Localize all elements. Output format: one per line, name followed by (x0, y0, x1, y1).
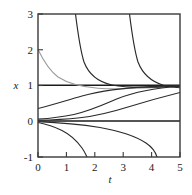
x-tick-label-1: 1 (64, 161, 70, 173)
y-tick-label-3: 3 (28, 8, 34, 20)
y-tick-label-neg1: -1 (24, 151, 33, 163)
x-tick-label-4: 4 (149, 161, 155, 173)
x-tick-label-0: 0 (35, 161, 41, 173)
x-tick-label-3: 3 (120, 161, 126, 173)
chart-figure: 3 2 1 0 -1 0 1 2 3 4 5 x t (0, 0, 192, 195)
y-tick-label-0: 0 (28, 115, 34, 127)
y-axis-title: x (13, 79, 19, 91)
x-axis-title: t (108, 173, 112, 185)
solution-curves-plot: 3 2 1 0 -1 0 1 2 3 4 5 x t (0, 0, 192, 195)
y-tick-label-1: 1 (28, 79, 34, 91)
x-tick-label-5: 5 (177, 161, 183, 173)
x-tick-label-2: 2 (92, 161, 98, 173)
y-tick-label-2: 2 (28, 44, 34, 56)
